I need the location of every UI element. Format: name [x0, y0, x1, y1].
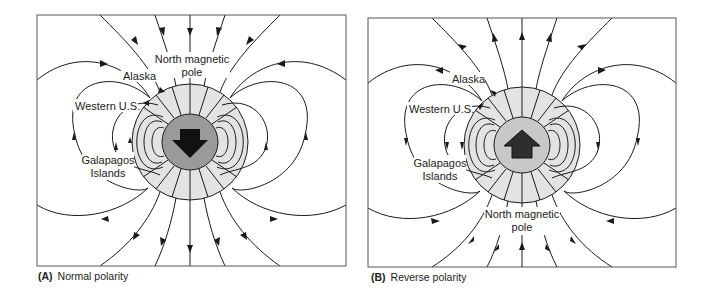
label-western-us-a: Western U.S. [75, 100, 140, 112]
caption-a: (A)Normal polarity [38, 270, 129, 282]
panel-b: Alaska Western U.S. Galapagos Islands No… [368, 18, 676, 283]
label-alaska-a: Alaska [123, 70, 157, 82]
label-galapagos-a-2: Islands [91, 167, 126, 179]
label-galapagos-a-1: Galapagos [81, 154, 135, 166]
panel-a: North magnetic pole Alaska Western U.S. … [37, 15, 346, 282]
label-western-us-b: Western U.S. [409, 103, 474, 115]
label-north-pole-a-2: pole [182, 66, 203, 78]
label-galapagos-b-1: Galapagos [413, 157, 467, 169]
label-north-pole-b-1: North magnetic [485, 208, 560, 220]
magnetic-polarity-diagram: North magnetic pole Alaska Western U.S. … [0, 0, 709, 296]
label-north-pole-a-1: North magnetic [155, 53, 230, 65]
label-north-pole-b-2: pole [512, 221, 533, 233]
label-galapagos-b-2: Islands [423, 170, 458, 182]
caption-b: (B)Reverse polarity [371, 271, 467, 283]
label-alaska-b: Alaska [452, 73, 486, 85]
